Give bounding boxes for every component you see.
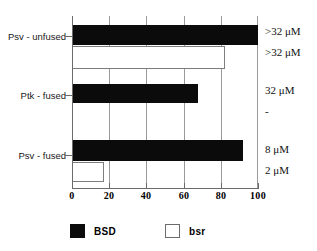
bar-bsd-ptk-fused: [72, 84, 198, 103]
legend-label-bsd: BSD: [94, 226, 116, 237]
x-tick-label-40: 40: [134, 190, 158, 201]
x-tick-20: [109, 183, 110, 189]
legend-swatch-bsr-icon: [165, 224, 180, 238]
annotation-bsr-psv-fused: 2 μM: [265, 164, 289, 176]
x-tick-label-60: 60: [172, 190, 196, 201]
bar-bsd-psv-unfused: [72, 25, 258, 45]
x-axis-line: [72, 188, 258, 189]
category-tick-psv-fused: [65, 155, 73, 156]
annotation-bsd-psv-fused: 8 μM: [265, 143, 289, 155]
x-tick-label-20: 20: [97, 190, 121, 201]
x-tick-80: [221, 183, 222, 189]
annotation-bsr-psv-unfused: >32 μM: [265, 46, 301, 58]
category-label-psv-unfused: Psv - unfused: [8, 31, 66, 42]
bar-bsr-psv-fused: [72, 162, 104, 182]
x-tick-100: [258, 183, 259, 189]
annotation-bsr-ptk-fused: -: [265, 105, 269, 117]
bar-chart: 0 20 40 60 80 100 Psv - unfused Ptk - fu…: [0, 0, 317, 251]
x-tick-60: [184, 183, 185, 189]
category-tick-ptk-fused: [65, 95, 73, 96]
x-tick-label-100: 100: [246, 190, 270, 201]
x-tick-label-0: 0: [60, 190, 84, 201]
legend-item-bsr: bsr: [165, 224, 205, 238]
chart-legend: BSD bsr: [70, 224, 270, 246]
legend-item-bsd: BSD: [70, 224, 116, 238]
legend-label-bsr: bsr: [189, 226, 205, 237]
category-label-psv-fused: Psv - fused: [18, 150, 66, 161]
bar-bsd-psv-fused: [72, 140, 243, 161]
annotation-bsd-ptk-fused: 32 μM: [265, 84, 294, 96]
x-tick-label-80: 80: [209, 190, 233, 201]
x-tick-40: [146, 183, 147, 189]
legend-swatch-bsd-icon: [70, 224, 85, 238]
category-label-ptk-fused: Ptk - fused: [21, 90, 66, 101]
plot-area: [72, 16, 258, 188]
category-tick-psv-unfused: [65, 36, 73, 37]
x-tick-0: [72, 183, 73, 189]
bar-bsr-psv-unfused: [72, 46, 225, 69]
y-axis-line: [72, 16, 73, 189]
annotation-bsd-psv-unfused: >32 μM: [265, 25, 301, 37]
